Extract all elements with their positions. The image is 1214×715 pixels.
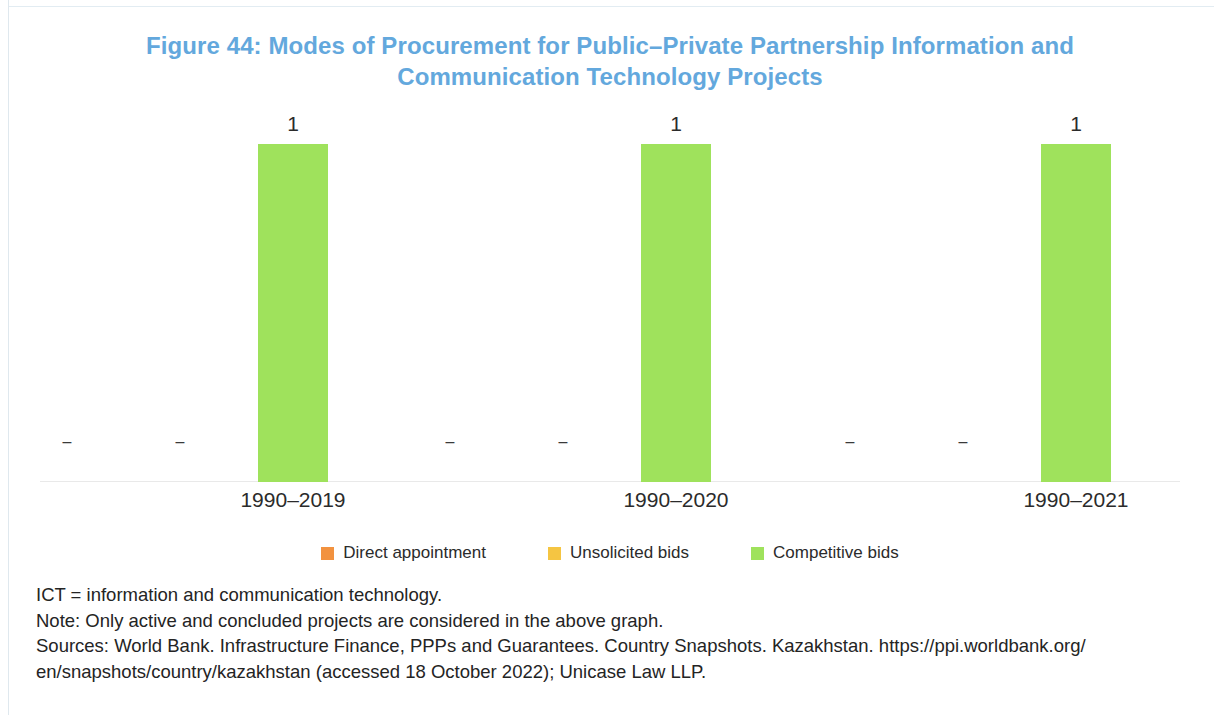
- note-text: Note: Only active and concluded projects…: [36, 608, 1186, 634]
- legend-item[interactable]: Unsolicited bids: [548, 543, 689, 563]
- figure-title: Figure 44: Modes of Procurement for Publ…: [60, 30, 1160, 92]
- chart-legend: Direct appointmentUnsolicited bidsCompet…: [40, 540, 1180, 566]
- legend-swatch-icon: [751, 547, 764, 560]
- bar-slot-unsolicited-bids[interactable]: –: [928, 110, 998, 482]
- zero-value-dash: –: [846, 437, 855, 447]
- legend-label: Direct appointment: [343, 543, 486, 563]
- category-label: 1990–2020: [623, 488, 728, 512]
- note-sources-line-2: en/snapshots/country/kazakhstan (accesse…: [36, 659, 1186, 685]
- legend-item[interactable]: Direct appointment: [321, 543, 486, 563]
- legend-swatch-icon: [321, 547, 334, 560]
- legend-label: Competitive bids: [773, 543, 899, 563]
- x-axis-category-labels: 1990–20191990–20201990–2021: [40, 488, 1180, 516]
- zero-value-dash: –: [959, 437, 968, 447]
- chart-plot-area: ––1––1––1: [40, 110, 1180, 482]
- bar[interactable]: [1041, 144, 1111, 482]
- bar-group: ––1: [40, 110, 1180, 482]
- bar-slot-competitive-bids[interactable]: 1: [1041, 110, 1111, 482]
- figure-page: Figure 44: Modes of Procurement for Publ…: [0, 0, 1214, 715]
- category-label: 1990–2021: [1023, 488, 1128, 512]
- legend-swatch-icon: [548, 547, 561, 560]
- bar-slot-direct-appointment[interactable]: –: [815, 110, 885, 482]
- page-edge-left: [8, 0, 9, 715]
- bar-value-label: 1: [1070, 112, 1082, 136]
- figure-notes: ICT = information and communication tech…: [36, 582, 1186, 684]
- category-label: 1990–2019: [240, 488, 345, 512]
- note-sources-line-1: Sources: World Bank. Infrastructure Fina…: [36, 633, 1186, 659]
- legend-item[interactable]: Competitive bids: [751, 543, 899, 563]
- legend-label: Unsolicited bids: [570, 543, 689, 563]
- page-edge-top: [9, 6, 1214, 7]
- note-abbreviation: ICT = information and communication tech…: [36, 582, 1186, 608]
